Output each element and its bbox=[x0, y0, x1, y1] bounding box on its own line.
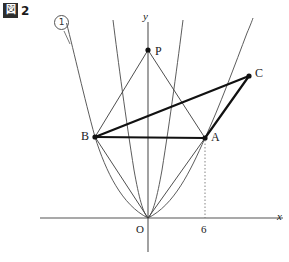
segment-BC bbox=[95, 76, 249, 137]
point-label-A: A bbox=[211, 131, 220, 143]
point-marker-B bbox=[92, 134, 97, 139]
point-marker-P bbox=[145, 47, 150, 52]
point-marker-C bbox=[246, 73, 251, 78]
point-label-P: P bbox=[155, 45, 162, 57]
segment-AO bbox=[148, 138, 205, 218]
segment-PB bbox=[95, 50, 148, 137]
figure-caption-box-char: 図 bbox=[3, 3, 18, 18]
segment-AB bbox=[95, 137, 205, 138]
x-axis-label: x bbox=[277, 211, 282, 222]
curve-id-tag: 1 bbox=[54, 15, 69, 30]
geometry-diagram bbox=[0, 0, 289, 262]
segment-BO bbox=[95, 137, 148, 218]
x-tick-label-6: 6 bbox=[201, 224, 207, 235]
y-axis-label: y bbox=[143, 11, 148, 22]
curve-id-tag-label: 1 bbox=[54, 15, 69, 30]
segment-PA bbox=[148, 50, 205, 138]
figure-caption-number: 2 bbox=[21, 4, 29, 18]
point-label-C: C bbox=[255, 67, 263, 79]
origin-label: O bbox=[136, 224, 144, 235]
point-marker-A bbox=[202, 135, 207, 140]
point-label-B: B bbox=[81, 130, 89, 142]
figure-container: 図 2 1 y x O 6 P B A C bbox=[0, 0, 289, 262]
figure-caption: 図 2 bbox=[3, 3, 29, 18]
